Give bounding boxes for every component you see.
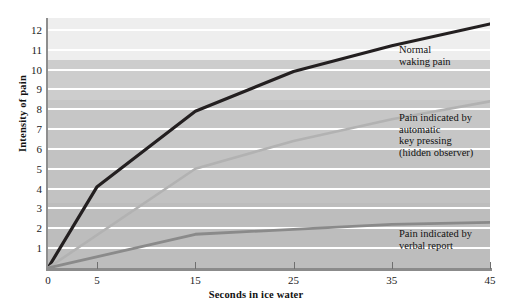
y-tick-label: 3 (0, 203, 42, 213)
x-axis-line (46, 268, 492, 271)
y-tick-label: 4 (0, 184, 42, 194)
x-tick-label: 45 (475, 274, 505, 286)
x-tick-label: 25 (279, 274, 309, 286)
x-tick-label: 15 (180, 274, 210, 286)
x-tick-mark (294, 262, 295, 269)
chart-figure: 123456789101112 0515253545 Intensity of … (0, 0, 512, 306)
y-tick-label: 12 (0, 25, 42, 35)
x-tick-label: 5 (82, 274, 112, 286)
y-axis-line (46, 18, 48, 269)
x-tick-mark (97, 262, 98, 269)
series-annotation-automatic-key-pressing: Pain indicated by automatic key pressing… (399, 112, 473, 158)
series-annotation-normal-waking-pain: Normal waking pain (399, 44, 451, 67)
y-axis-title: Intensity of pain (17, 49, 28, 179)
series-annotation-verbal-report: Pain indicated by verbal report (399, 228, 472, 251)
x-axis-title: Seconds in ice water (0, 289, 512, 300)
x-tick-mark (490, 262, 491, 269)
x-tick-label: 35 (377, 274, 407, 286)
x-tick-mark (195, 262, 196, 269)
y-tick-label: 2 (0, 223, 42, 233)
y-tick-label: 1 (0, 243, 42, 253)
x-tick-label: 0 (33, 274, 63, 286)
x-tick-mark (392, 262, 393, 269)
